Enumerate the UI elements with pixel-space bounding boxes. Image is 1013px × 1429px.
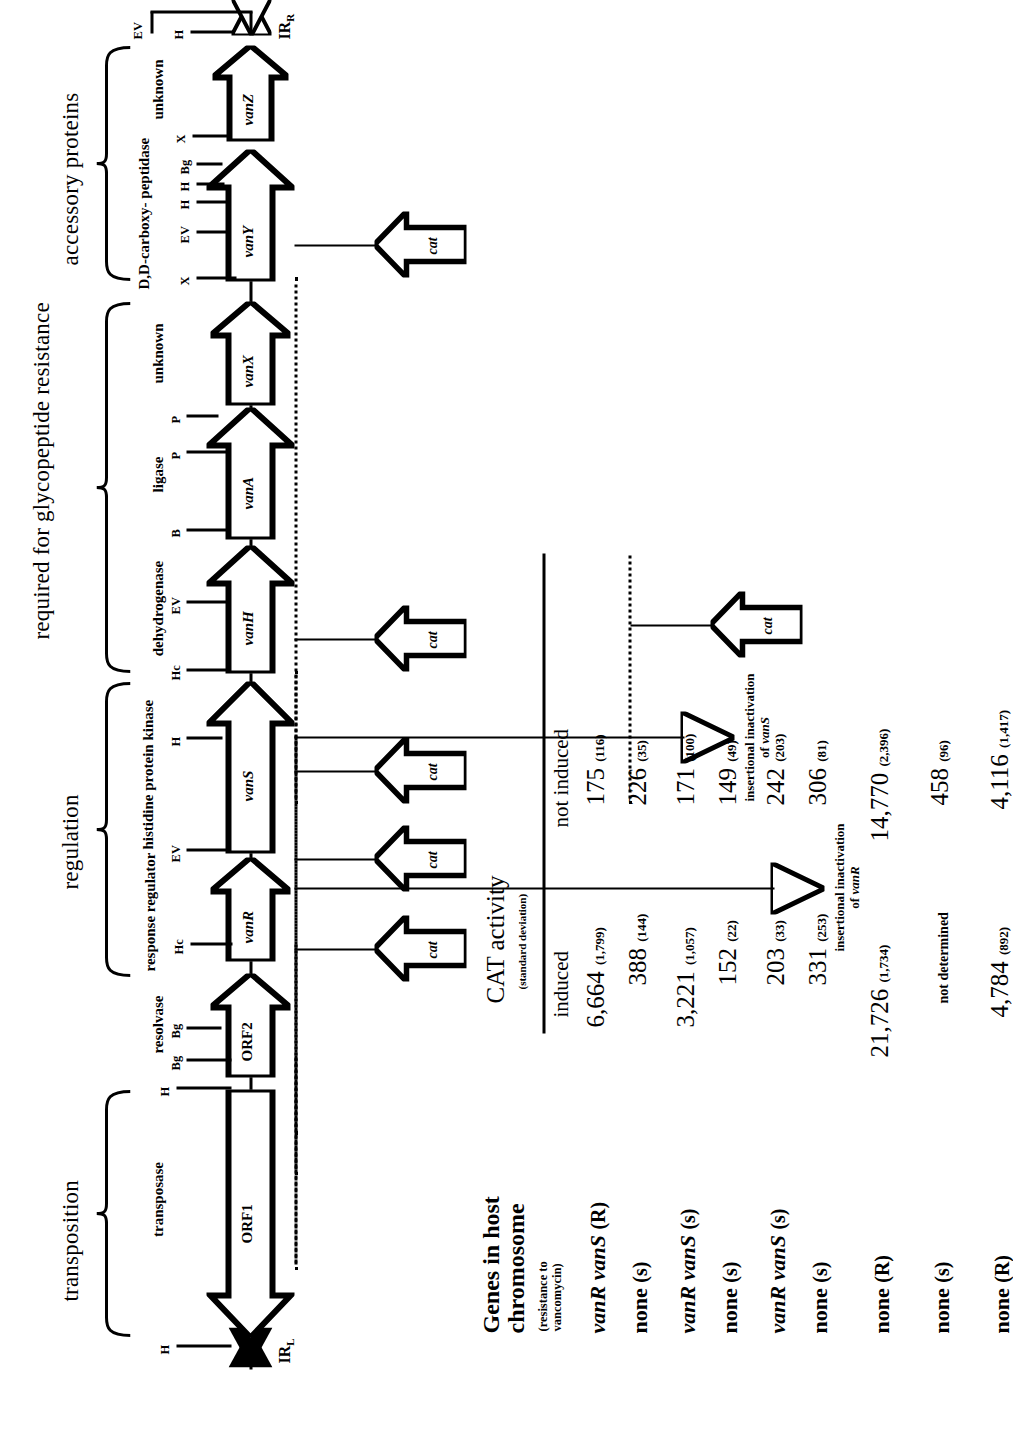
site-tick-H-vanY-c [196,183,224,186]
gene-label-vanA: vanA [240,476,255,509]
table-cell-not-induced: 242 (203) [762,733,788,805]
site-label-H-irleft: H [158,1344,171,1354]
site-label-H-irright: H [172,29,185,39]
ir-right-marker [231,0,275,35]
site-tick-H-irright [190,31,234,34]
site-tick-EV-irright [150,10,252,13]
function-label-vanX-unknown: unknown [150,303,166,403]
bracket-label-transposition: transposition [58,1180,81,1301]
gene-label-vanZ: vanZ [240,93,255,125]
table-row: none (s) [628,1261,650,1333]
gene-arrow-vanX[interactable] [210,301,294,405]
bracket-transposition [96,1089,130,1337]
cat-connector-5 [294,948,378,950]
site-tick-Hc-vanR [190,943,232,946]
gene-arrow-vanH[interactable] [206,545,298,673]
gene-label-vanH: vanH [240,611,255,645]
cat-connector-1 [294,244,378,246]
site-tick-Hc-vanHstart [186,669,228,672]
site-label-EV-vanH: EV [169,596,182,614]
bracket-label-accessory: accessory proteins [58,92,81,265]
table-row: none (R) [870,1254,892,1333]
insertion-triangle-vanR[interactable] [770,862,828,914]
gene-label-vanX: vanX [240,354,255,387]
gene-label-ORF2: ORF2 [239,1022,254,1061]
gene-arrow-vanS[interactable] [206,681,298,853]
table-cell-induced: 3,221 (1,057) [672,927,698,1027]
cat-label-2: cat [425,631,439,648]
site-label-X-vanZstart: X [174,134,187,143]
site-tick-H-vanY-b [196,201,226,204]
table-cell-induced: not determined [936,912,950,1003]
site-tick-EV-vanH [186,601,228,604]
table-header-genes-sub: (resistance to vancomycin) [536,1261,563,1331]
site-tick-H-orf1end [176,1087,231,1090]
cat-arrow-5[interactable] [374,915,470,981]
dotted-line-ORF2 [294,1057,297,1269]
ir-right-label: IRR [276,13,295,39]
table-header-cat: CAT activity [482,875,508,1003]
function-label-response-regulator: response regulator [142,861,158,971]
site-tick-H-irleft [176,1345,231,1348]
gene-label-vanS: vanS [240,770,255,801]
function-label-ligase: ligase [150,419,166,529]
gene-arrow-vanY[interactable] [206,149,298,281]
site-label-EV-vanY-a: EV [178,225,191,243]
table-row: none (s) [930,1261,952,1333]
function-label-histidine-kinase: histidine protein kinase [140,709,156,849]
table-cell-not-induced: 226 (35) [624,740,650,805]
site-tick-Bg-a [186,1059,231,1062]
table-cell-not-induced: 4,116 (1,417) [986,710,1012,810]
site-tick-Bg-b [186,1027,221,1030]
cat-label-4: cat [425,851,439,868]
site-tick-Bg-vanY-d [196,163,222,166]
table-cell-not-induced: 458 (96) [926,740,952,805]
site-label-P-vanA-b: P [169,451,182,459]
table-row: vanR vanS (s) [766,1208,788,1333]
cat-arrow-3[interactable] [374,737,470,803]
cat-arrow-4[interactable] [374,825,470,891]
site-label-P-vanAX: P [169,415,182,423]
table-cell-induced: 21,726 (1,734) [866,944,892,1057]
site-tick-X-vanYstart [196,277,236,280]
bracket-accessory [96,45,130,281]
table-column-induced: induced [550,951,571,1017]
cat-connector-6 [630,624,714,626]
table-cell-not-induced: 171 (100) [672,733,698,805]
table-row: vanR vanS (s) [676,1208,698,1333]
gene-label-ORF1: ORF1 [239,1204,254,1243]
table-column-not-induced: not induced [550,728,571,827]
function-label-transposase: transposase [150,1139,166,1259]
cat-connector-3 [294,770,378,772]
table-cell-not-induced: 149 (49) [714,740,740,805]
table-row: vanR vanS (R) [586,1201,608,1333]
site-label-Bg-b: Bg [169,1023,182,1038]
bracket-label-regulation: regulation [58,794,81,889]
table-row: none (s) [808,1261,830,1333]
cat-connector-4 [294,858,378,860]
site-label-Bg-vanY-d: Bg [178,159,191,174]
table-cell-induced: 4,784 (892) [986,926,1012,1017]
site-label-Bg-a: Bg [169,1055,182,1070]
insertion-connector-vanS [294,736,684,738]
site-label-H-vanY-b: H [178,199,191,209]
table-cell-induced: 388 (144) [624,913,650,985]
insertion-connector-vanR [294,887,774,889]
cat-arrow-1[interactable] [374,211,470,277]
table-cell-not-induced: 306 (81) [804,740,830,805]
bracket-resistance [96,301,130,673]
table-cell-not-induced: 175 (116) [582,734,608,805]
function-label-vanZ-unknown: unknown [150,39,166,139]
gene-arrow-vanA[interactable] [206,407,298,539]
site-tick-H-vanSend [186,737,222,740]
site-tick-EV-vanRS [186,849,228,852]
function-label-dd-carboxypeptidase: D,D-carboxy- peptidase [135,141,151,289]
cat-label-5: cat [425,941,439,958]
right-end-elbow [249,11,252,33]
table-cell-induced: 6,664 (1,799) [582,927,608,1027]
cat-arrow-2[interactable] [374,605,470,671]
gene-label-vanR: vanR [240,910,255,943]
site-tick-P-vanAX [186,415,218,418]
table-header-rule [542,553,545,1033]
